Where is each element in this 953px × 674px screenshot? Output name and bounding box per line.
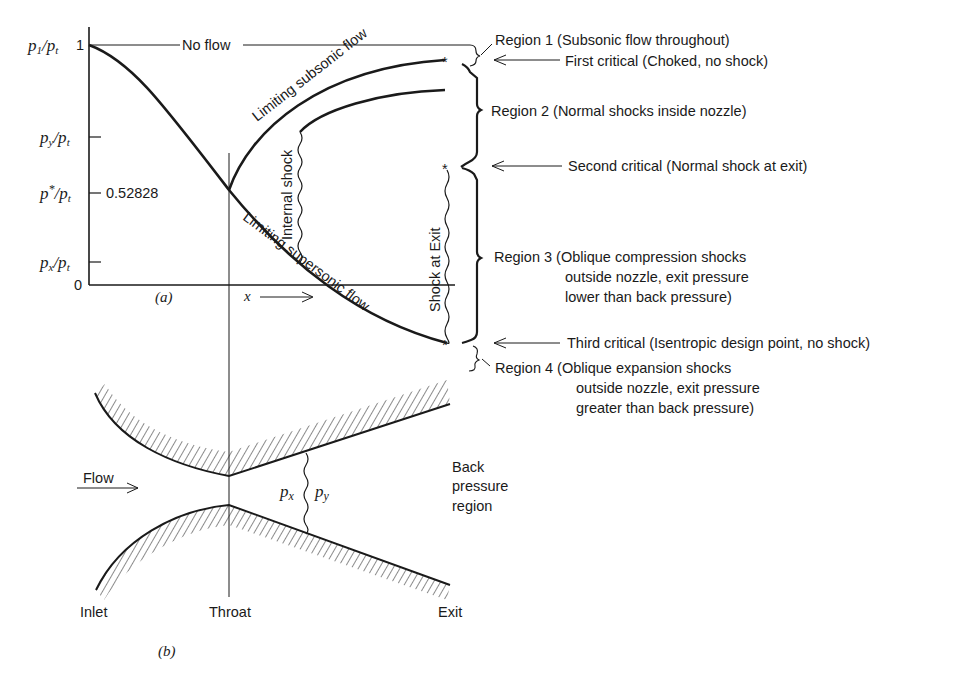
- shock-at-exit-wave: [445, 170, 449, 343]
- ylabel-zero: 0: [74, 277, 82, 293]
- nozzle-pressure-diagram: p1/pt 1 py/pt p*/pt 0.52828 px/pt 0 x (a…: [0, 0, 953, 674]
- first-critical-label: First critical (Choked, no shock): [565, 53, 768, 69]
- region1-leader: [481, 44, 492, 55]
- second-critical-star-icon: *: [442, 161, 448, 177]
- first-critical-arrow-icon: [494, 55, 560, 65]
- ylabel-pstar-pt: p*/pt: [39, 182, 72, 204]
- no-flow-label: No flow: [182, 37, 231, 53]
- region4-leader: [482, 359, 490, 366]
- shock-at-exit-label: Shock at Exit: [427, 227, 443, 312]
- py-label: py: [314, 482, 330, 503]
- panel-b-label: (b): [158, 643, 176, 660]
- limiting-subsonic-label: Limiting subsonic flow: [249, 25, 370, 125]
- region1-brace: [470, 45, 480, 66]
- pressure-chart: p1/pt 1 py/pt p*/pt 0.52828 px/pt 0 x (a…: [27, 25, 870, 597]
- region4-label-line2: outside nozzle, exit pressure: [576, 380, 760, 396]
- ylabel-py-pt: py/pt: [39, 128, 71, 148]
- region4-label-line3: greater than back pressure): [576, 400, 754, 416]
- back-pressure-line1: Back: [452, 459, 485, 475]
- exit-label: Exit: [438, 604, 462, 620]
- xlabel-x: x: [243, 288, 251, 304]
- region3-label-line3: lower than back pressure): [565, 289, 732, 305]
- ylabel-px-pt: px/pt: [39, 253, 71, 273]
- ylabel-pstar-value: 0.52828: [106, 185, 158, 201]
- internal-shock-wave: [298, 132, 302, 262]
- region3-label-line1: Region 3 (Oblique compression shocks: [494, 249, 746, 265]
- post-shock-curve: [300, 90, 445, 132]
- first-critical-star-icon: *: [442, 54, 448, 70]
- third-critical-arrow-icon: [494, 338, 560, 348]
- ylabel-p1-pt: p1/pt: [27, 36, 59, 56]
- second-critical-arrow-icon: [492, 161, 562, 171]
- inlet-label: Inlet: [80, 604, 107, 620]
- flow-label: Flow: [83, 470, 114, 486]
- region3-brace: [462, 168, 481, 343]
- region2-label: Region 2 (Normal shocks inside nozzle): [491, 103, 746, 119]
- third-critical-star-icon: *: [442, 337, 448, 353]
- limiting-supersonic-label: Limiting supersonic flow: [240, 209, 373, 315]
- region1-label: Region 1 (Subsonic flow throughout): [495, 32, 730, 48]
- panel-a-label: (a): [155, 289, 173, 306]
- second-critical-label: Second critical (Normal shock at exit): [568, 158, 807, 174]
- throat-label: Throat: [209, 604, 251, 620]
- back-pressure-line2: pressure: [452, 478, 508, 494]
- region2-brace: [461, 64, 481, 167]
- lower-wall-hatch: [96, 505, 450, 600]
- nozzle-sketch: px py Flow Back pressure region Inlet Th…: [77, 380, 508, 660]
- third-critical-label: Third critical (Isentropic design point,…: [567, 335, 870, 351]
- internal-shock-label: Internal shock: [279, 149, 295, 240]
- region3-label-line2: outside nozzle, exit pressure: [565, 269, 749, 285]
- limiting-subsonic-curve: [229, 60, 445, 190]
- region4-brace: [469, 346, 479, 371]
- back-pressure-line3: region: [452, 498, 492, 514]
- px-label: px: [279, 482, 295, 503]
- region4-label-line1: Region 4 (Oblique expansion shocks: [495, 360, 731, 376]
- normal-shock-wave: [304, 453, 308, 534]
- ylabel-one: 1: [76, 37, 84, 53]
